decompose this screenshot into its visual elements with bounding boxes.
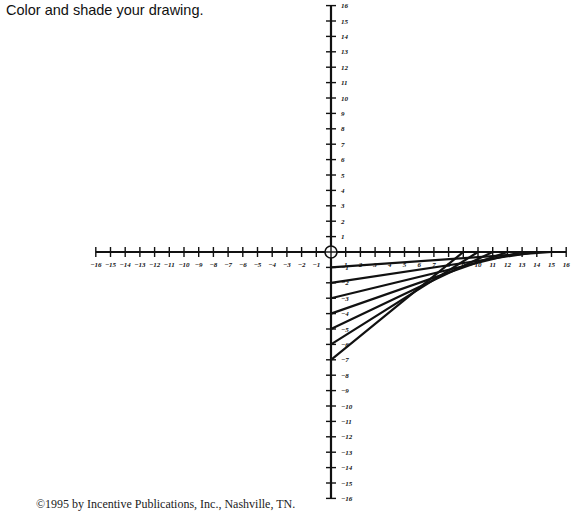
y-tick-label: −14: [341, 464, 353, 472]
x-tick-label: −8: [210, 261, 218, 269]
x-tick-label: −9: [195, 261, 203, 269]
x-tick-label: −4: [268, 261, 276, 269]
x-tick-label: 16: [563, 261, 571, 269]
x-tick-label: 14: [533, 261, 541, 269]
y-tick-label: 10: [341, 95, 349, 103]
y-tick-label: 11: [341, 79, 348, 87]
y-tick-label: 12: [341, 64, 349, 72]
y-tick-label: −4: [341, 310, 349, 318]
y-tick-label: −15: [341, 480, 353, 488]
y-tick-label: 3: [340, 202, 345, 210]
y-tick-label: 14: [341, 33, 349, 41]
copyright-text: ©1995 by Incentive Publications, Inc., N…: [36, 497, 295, 512]
x-tick-label: −7: [224, 261, 232, 269]
y-tick-label: 5: [341, 172, 345, 180]
y-tick-label: 15: [341, 18, 349, 26]
x-tick-label: −14: [120, 261, 132, 269]
y-tick-label: −7: [341, 356, 349, 364]
y-tick-label: −1: [341, 264, 349, 272]
y-tick-label: −12: [341, 433, 353, 441]
y-tick-label: −5: [341, 326, 349, 334]
x-tick-label: −15: [105, 261, 117, 269]
y-tick-label: 7: [341, 141, 345, 149]
y-tick-label: 8: [341, 125, 345, 133]
x-tick-label: −5: [254, 261, 262, 269]
x-tick-label: −10: [178, 261, 190, 269]
y-tick-label: 9: [341, 110, 345, 118]
y-tick-label: −13: [341, 449, 353, 457]
x-tick-label: 13: [519, 261, 527, 269]
x-tick-label: −6: [239, 261, 247, 269]
y-tick-label: 13: [341, 48, 349, 56]
y-tick-label: 2: [340, 218, 345, 226]
string-art-segment: [331, 252, 522, 298]
string-art-segment: [331, 252, 493, 329]
y-tick-label: −9: [341, 387, 349, 395]
x-tick-label: −11: [164, 261, 175, 269]
x-tick-label: −16: [90, 261, 102, 269]
y-tick-label: −16: [341, 495, 353, 503]
x-tick-label: −2: [298, 261, 306, 269]
x-tick-label: 12: [504, 261, 512, 269]
x-tick-label: 15: [548, 261, 556, 269]
y-tick-label: 1: [341, 233, 345, 241]
x-tick-label: −3: [283, 261, 291, 269]
y-tick-label: −8: [341, 372, 349, 380]
x-tick-label: −12: [149, 261, 161, 269]
y-tick-label: 6: [341, 156, 345, 164]
y-tick-label: 4: [340, 187, 345, 195]
x-tick-label: 11: [489, 261, 496, 269]
y-tick-label: 16: [341, 2, 349, 10]
y-tick-label: −10: [341, 403, 353, 411]
x-tick-label: −1: [312, 261, 320, 269]
x-tick-label: −13: [134, 261, 146, 269]
y-tick-label: −11: [341, 418, 352, 426]
